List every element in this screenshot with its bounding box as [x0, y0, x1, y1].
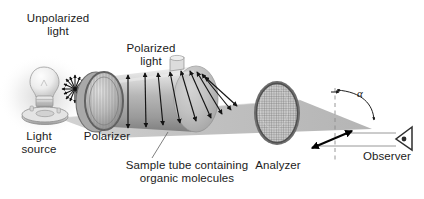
rotated-polarization-arrow — [312, 131, 352, 148]
label-light-source: Light source — [4, 130, 74, 156]
observer-eye-icon — [396, 127, 412, 150]
label-rotation-angle: α — [352, 87, 368, 100]
label-polarizer: Polarizer — [74, 130, 140, 143]
label-polarized-light: Polarized light — [103, 42, 199, 68]
label-unpolarized-light: Unpolarized light — [6, 12, 110, 38]
polarimeter-diagram: Unpolarized light Polarized light Light … — [0, 0, 424, 199]
polarizer-icon — [85, 72, 123, 130]
label-analyzer: Analyzer — [243, 159, 313, 172]
analyzer-icon — [254, 81, 300, 145]
label-observer: Observer — [355, 150, 419, 163]
